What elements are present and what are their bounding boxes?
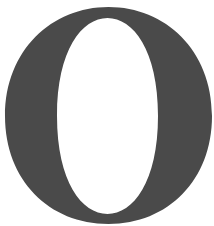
letter-o-shape <box>0 0 214 226</box>
